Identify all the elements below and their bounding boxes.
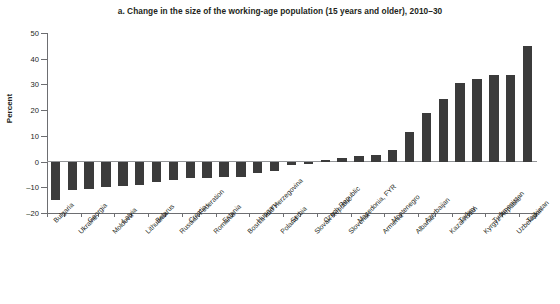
bar	[253, 162, 262, 174]
y-tick-label: 50	[13, 29, 39, 38]
x-tick	[418, 213, 419, 217]
chart-title: a. Change in the size of the working-age…	[0, 6, 560, 16]
bar	[337, 158, 346, 162]
bar	[489, 75, 498, 161]
x-tick	[485, 213, 486, 217]
bar	[135, 162, 144, 185]
x-tick	[114, 213, 115, 217]
y-tick-label: 20	[13, 106, 39, 115]
x-tick	[384, 213, 385, 217]
bar	[388, 150, 397, 162]
bar	[270, 162, 279, 171]
bar	[287, 162, 296, 166]
bar	[304, 162, 313, 164]
bar	[405, 132, 414, 162]
x-tick	[148, 213, 149, 217]
bar	[219, 162, 228, 177]
x-tick	[519, 213, 520, 217]
bar	[321, 160, 330, 162]
bar	[523, 46, 532, 162]
bar	[118, 162, 127, 186]
x-tick	[47, 213, 48, 217]
bar	[101, 162, 110, 188]
bar	[68, 162, 77, 190]
bar	[506, 75, 515, 161]
x-tick	[317, 213, 318, 217]
bar	[202, 162, 211, 179]
bar	[422, 113, 431, 162]
y-tick-label: –20	[13, 209, 39, 218]
bar	[51, 162, 60, 201]
bar	[236, 162, 245, 177]
chart-figure: a. Change in the size of the working-age…	[0, 0, 560, 304]
x-tick	[81, 213, 82, 217]
x-tick	[249, 213, 250, 217]
x-tick	[452, 213, 453, 217]
y-tick-label: 40	[13, 54, 39, 63]
y-tick-label: –10	[13, 183, 39, 192]
x-tick	[283, 213, 284, 217]
x-tick	[216, 213, 217, 217]
y-tick-label: 10	[13, 131, 39, 140]
bar	[472, 79, 481, 161]
bar	[152, 162, 161, 183]
bar	[455, 83, 464, 161]
y-tick-label: 0	[13, 157, 39, 166]
bar	[169, 162, 178, 180]
bar	[439, 99, 448, 162]
bar	[186, 162, 195, 179]
bar	[354, 156, 363, 161]
x-tick	[182, 213, 183, 217]
y-tick-label: 30	[13, 80, 39, 89]
bar	[371, 155, 380, 161]
x-tick	[351, 213, 352, 217]
bar	[84, 162, 93, 189]
